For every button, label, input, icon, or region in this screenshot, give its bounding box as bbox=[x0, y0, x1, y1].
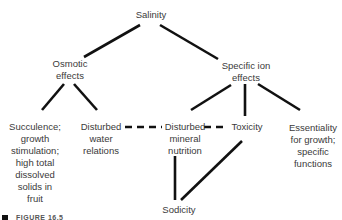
node-disturbed-mineral-nutrition: Disturbed mineral nutrition bbox=[160, 121, 210, 157]
node-succulence: Succulence; growth stimulation; high tot… bbox=[6, 121, 64, 205]
node-toxicity: Toxicity bbox=[226, 121, 268, 133]
node-specific-ion-effects: Specific ion effects bbox=[214, 60, 278, 84]
node-disturbed-water-relations: Disturbed water relations bbox=[76, 121, 126, 157]
node-essentiality: Essentiality for growth; specific functi… bbox=[286, 122, 340, 170]
node-salinity: Salinity bbox=[124, 9, 178, 21]
node-sodicity: Sodicity bbox=[157, 204, 201, 216]
edge-osmotic-water bbox=[74, 84, 97, 110]
edge-specific-mineral bbox=[191, 85, 231, 110]
figure-caption: FIGURE 16.5 bbox=[2, 214, 64, 220]
edge-osmotic-succulence bbox=[42, 84, 64, 110]
edge-salinity-specific-ion bbox=[160, 25, 218, 59]
caption-text: FIGURE 16.5 bbox=[16, 214, 64, 220]
caption-marker bbox=[2, 215, 8, 220]
node-osmotic-effects: Osmotic effects bbox=[45, 58, 95, 82]
edge-salinity-osmotic bbox=[84, 25, 140, 57]
edge-specific-essentiality bbox=[258, 84, 300, 110]
